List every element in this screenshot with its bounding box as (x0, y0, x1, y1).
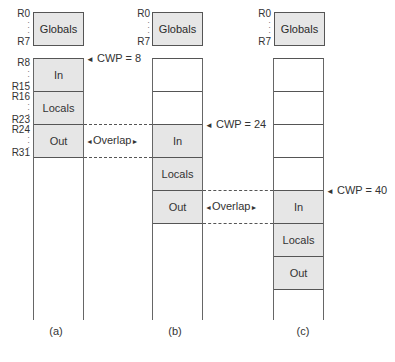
register-label-r31: R31 (2, 148, 30, 158)
globals-box-a: Globals (33, 12, 84, 46)
cwp-label-c: CWP = 40 (337, 184, 387, 196)
left-arrow-icon: ◄ (86, 138, 93, 145)
window-cell-out-b: Out (153, 190, 202, 223)
globals-label-c: Globals (281, 23, 318, 35)
cwp-annotation-c: ◄ CWP = 40 (326, 184, 387, 198)
overlap-annotation-ab: ◄Overlap► (86, 134, 138, 148)
caption-a: (a) (36, 325, 76, 337)
right-arrow-icon: ► (131, 138, 138, 145)
window-cell-locals-c: Locals (274, 223, 323, 256)
overlap-dashed-line-bottom-ab (84, 157, 152, 158)
window-cell-out-a: Out (34, 124, 83, 157)
vertical-dots-a-globals: ··· (2, 20, 30, 35)
overlap-label-bc: Overlap (212, 200, 251, 212)
overlap-annotation-bc: ◄Overlap► (205, 200, 257, 214)
window-cell-locals-a: Locals (34, 91, 83, 124)
window-cell-empty-c2 (274, 124, 323, 157)
left-arrow-icon: ◄ (326, 187, 334, 196)
window-divider-a (34, 157, 83, 158)
globals-label-a: Globals (40, 23, 77, 35)
register-label-r7-c: R7 (243, 37, 271, 47)
vertical-dots-b-globals: ··· (122, 20, 150, 35)
window-cell-in-a: In (34, 58, 83, 91)
window-cell-in-b: In (153, 124, 202, 157)
overlap-label-ab: Overlap (93, 134, 132, 146)
left-arrow-icon: ◄ (86, 55, 94, 64)
register-label-r8: R8 (2, 58, 30, 68)
window-divider-c (274, 289, 323, 290)
vertical-dots-c-globals: ··· (243, 20, 271, 35)
globals-box-c: Globals (274, 12, 325, 46)
cwp-label-a: CWP = 8 (97, 52, 141, 64)
register-label-r7-a: R7 (2, 37, 30, 47)
overlap-dashed-line-top-bc (203, 190, 273, 191)
globals-box-b: Globals (152, 12, 203, 46)
right-arrow-icon: ► (250, 204, 257, 211)
overlap-dashed-line-bottom-bc (203, 223, 273, 224)
register-label-r7-b: R7 (122, 37, 150, 47)
overlap-dashed-line-top-ab (84, 124, 152, 125)
register-label-r0-a: R0 (2, 9, 30, 19)
globals-label-b: Globals (159, 23, 196, 35)
register-label-r24: R24 (2, 125, 30, 135)
window-cell-empty-c1 (274, 91, 323, 124)
cwp-label-b: CWP = 24 (216, 118, 266, 130)
window-cell-out-c: Out (274, 256, 323, 289)
cwp-annotation-a: ◄ CWP = 8 (86, 52, 141, 66)
caption-b: (b) (155, 325, 195, 337)
left-arrow-icon: ◄ (205, 204, 212, 211)
window-divider-b (153, 223, 202, 224)
window-cell-empty-c3 (274, 157, 323, 190)
window-cell-in-c: In (274, 190, 323, 223)
register-label-r16: R16 (2, 92, 30, 102)
cwp-annotation-b: ◄ CWP = 24 (205, 118, 266, 132)
register-label-r0-b: R0 (122, 9, 150, 19)
caption-c: (c) (283, 325, 323, 337)
register-label-r0-c: R0 (243, 9, 271, 19)
left-arrow-icon: ◄ (205, 121, 213, 130)
window-cell-locals-b: Locals (153, 157, 202, 190)
window-cell-empty-b1 (153, 91, 202, 124)
